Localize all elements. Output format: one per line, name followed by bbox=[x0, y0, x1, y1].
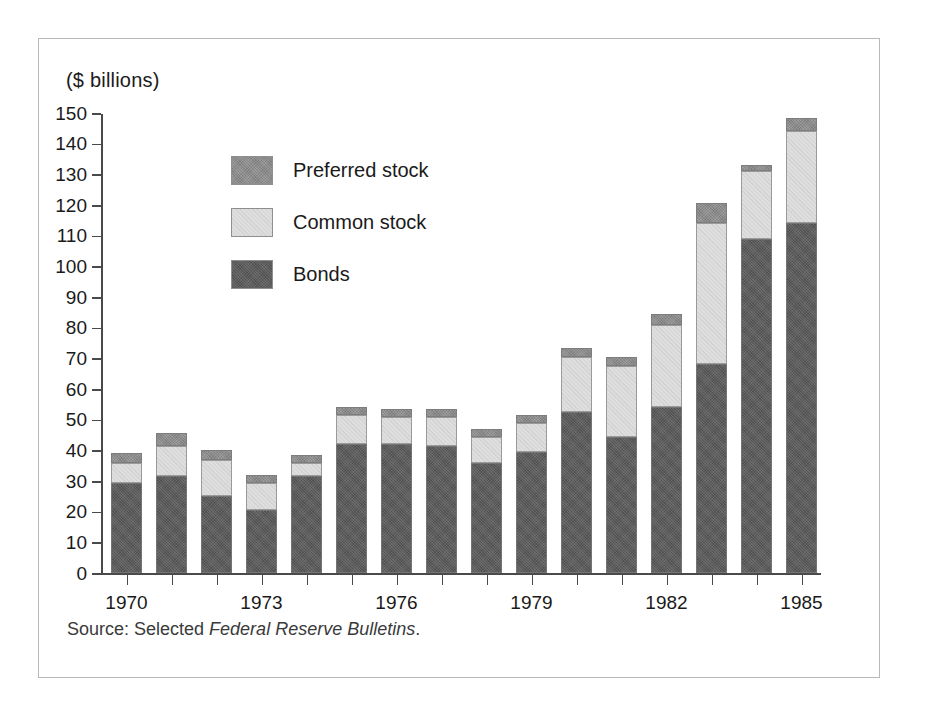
legend-item-label: Preferred stock bbox=[293, 159, 429, 182]
bar-segment-preferred-stock bbox=[696, 203, 727, 223]
y-axis-tick-label: 10 bbox=[66, 532, 87, 554]
bar-segment-preferred-stock bbox=[561, 348, 592, 357]
bar-segment-common-stock bbox=[246, 483, 277, 511]
y-axis-tick: 50 bbox=[92, 420, 101, 422]
bar-segment-preferred-stock bbox=[741, 165, 772, 171]
x-axis-tick-label: 1979 bbox=[510, 592, 552, 614]
bar-segment-common-stock bbox=[111, 463, 142, 483]
legend-item: Common stock bbox=[231, 203, 429, 242]
figure-frame: ($ billions) 150140130120110100908070605… bbox=[38, 38, 880, 678]
y-axis-tick-label: 0 bbox=[76, 563, 87, 585]
y-axis-tick-label: 140 bbox=[55, 133, 87, 155]
bar-segment-bonds bbox=[696, 364, 727, 573]
x-axis-tick bbox=[622, 574, 624, 585]
x-axis-tick-label: 1985 bbox=[780, 592, 822, 614]
bar bbox=[336, 407, 367, 573]
bar-segment-common-stock bbox=[156, 446, 187, 477]
y-axis-tick: 100 bbox=[92, 266, 101, 268]
bar-segment-bonds bbox=[741, 239, 772, 573]
bar bbox=[291, 455, 322, 573]
bar-segment-common-stock bbox=[516, 423, 547, 452]
x-axis-tick bbox=[757, 574, 759, 585]
bar bbox=[696, 203, 727, 573]
bar-segment-preferred-stock bbox=[651, 314, 682, 325]
y-axis-tick-label: 90 bbox=[66, 287, 87, 309]
legend-item: Bonds bbox=[231, 255, 429, 294]
source-note-publication: Federal Reserve Bulletins bbox=[209, 619, 415, 639]
y-axis-tick-label: 150 bbox=[55, 103, 87, 125]
y-axis-tick: 140 bbox=[92, 144, 101, 146]
bar-segment-preferred-stock bbox=[111, 453, 142, 462]
bar bbox=[201, 450, 232, 573]
bar-segment-common-stock bbox=[381, 417, 412, 445]
bar-segment-common-stock bbox=[291, 463, 322, 477]
y-axis-unit-caption: ($ billions) bbox=[66, 69, 160, 92]
x-axis-tick-label: 1973 bbox=[240, 592, 282, 614]
y-axis-tick: 30 bbox=[92, 481, 101, 483]
bar-segment-bonds bbox=[156, 476, 187, 573]
x-axis-tick bbox=[127, 574, 129, 585]
bar-segment-preferred-stock bbox=[381, 409, 412, 417]
legend-item-label: Bonds bbox=[293, 263, 350, 286]
source-note: Source: Selected Federal Reserve Bulleti… bbox=[67, 619, 420, 640]
bar-segment-bonds bbox=[336, 444, 367, 573]
y-axis-tick: 120 bbox=[92, 205, 101, 207]
y-axis-line bbox=[101, 114, 103, 574]
x-axis-tick bbox=[577, 574, 579, 585]
x-axis-tick bbox=[307, 574, 309, 585]
legend-item-label: Common stock bbox=[293, 211, 426, 234]
chart-plot-area: 1501401301201101009080706050403020100 19… bbox=[101, 110, 831, 580]
y-axis-tick-label: 80 bbox=[66, 317, 87, 339]
y-axis-tick-label: 70 bbox=[66, 348, 87, 370]
x-axis-tick bbox=[667, 574, 669, 585]
x-axis-tick bbox=[397, 574, 399, 585]
bar bbox=[606, 357, 637, 573]
x-axis-tick bbox=[172, 574, 174, 585]
bar-segment-bonds bbox=[516, 452, 547, 573]
source-note-prefix: Source: Selected bbox=[67, 619, 209, 639]
bar-segment-bonds bbox=[651, 407, 682, 573]
bar-segment-preferred-stock bbox=[426, 409, 457, 417]
bar bbox=[741, 165, 772, 573]
bar-segment-preferred-stock bbox=[606, 357, 637, 366]
bar-segment-bonds bbox=[471, 463, 502, 573]
y-axis-tick-label: 60 bbox=[66, 379, 87, 401]
bar-segment-preferred-stock bbox=[516, 415, 547, 423]
bar-segment-common-stock bbox=[696, 223, 727, 364]
bar-segment-common-stock bbox=[786, 131, 817, 223]
x-axis-tick bbox=[802, 574, 804, 585]
bar-segment-bonds bbox=[786, 223, 817, 573]
bar-segment-common-stock bbox=[651, 325, 682, 408]
y-axis-tick-label: 20 bbox=[66, 501, 87, 523]
y-axis-tick: 110 bbox=[92, 236, 101, 238]
y-axis-tick: 60 bbox=[92, 389, 101, 391]
y-axis-tick: 40 bbox=[92, 450, 101, 452]
y-axis-tick: 10 bbox=[92, 542, 101, 544]
y-axis-tick: 20 bbox=[92, 512, 101, 514]
x-axis-tick bbox=[262, 574, 264, 585]
y-axis-tick: 90 bbox=[92, 297, 101, 299]
bar-segment-common-stock bbox=[201, 460, 232, 497]
bar-segment-common-stock bbox=[741, 171, 772, 238]
x-axis-tick-label: 1970 bbox=[105, 592, 147, 614]
y-axis-tick-label: 130 bbox=[55, 164, 87, 186]
x-axis-tick bbox=[712, 574, 714, 585]
bar bbox=[426, 409, 457, 573]
bar bbox=[156, 433, 187, 573]
bar-segment-preferred-stock bbox=[201, 450, 232, 459]
bar-segment-preferred-stock bbox=[336, 407, 367, 415]
preferred-swatch bbox=[231, 156, 273, 185]
x-axis-tick-label: 1982 bbox=[645, 592, 687, 614]
bar bbox=[561, 348, 592, 573]
bar-segment-common-stock bbox=[606, 366, 637, 437]
y-axis-tick: 150 bbox=[92, 113, 101, 115]
bar bbox=[111, 453, 142, 573]
y-axis-tick: 0 bbox=[92, 573, 101, 575]
bar-segment-common-stock bbox=[336, 415, 367, 444]
bar-segment-bonds bbox=[111, 483, 142, 573]
bar-segment-bonds bbox=[201, 496, 232, 573]
x-axis-line bbox=[101, 573, 821, 575]
bar bbox=[246, 475, 277, 573]
bar-segment-preferred-stock bbox=[471, 429, 502, 437]
bar-segment-preferred-stock bbox=[291, 455, 322, 463]
